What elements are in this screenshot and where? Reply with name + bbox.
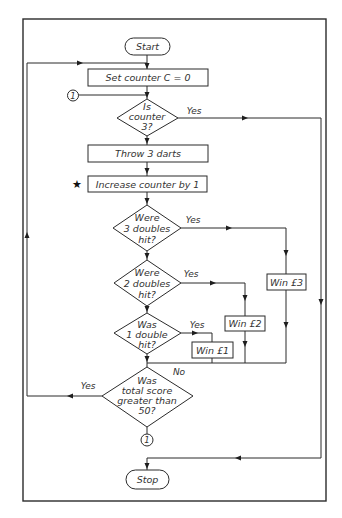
arrow-up-icon	[25, 232, 30, 238]
terminal-start-label: Start	[136, 41, 160, 52]
decision-line: 50?	[138, 405, 155, 416]
yes-label: Yes	[184, 269, 199, 279]
decision-line: 3 doubles	[124, 223, 170, 234]
yes-label: Yes	[190, 320, 205, 330]
yes-label: Yes	[81, 381, 96, 391]
diagram-frame	[23, 19, 326, 501]
outcome-win-3-label: Win £3	[270, 277, 303, 288]
decision-line: 2 doubles	[124, 278, 170, 289]
outcome-win-2-label: Win £2	[228, 318, 261, 329]
star-marker-icon: ★	[72, 178, 82, 191]
decision-three-doubles: Were 3 doubles hit?	[113, 205, 181, 251]
arrow-down-icon	[145, 168, 150, 174]
yes-label: Yes	[187, 106, 202, 116]
process-throw-darts-label: Throw 3 darts	[115, 148, 181, 159]
connector-circle-top: 1	[68, 90, 79, 101]
decision-line: hit?	[138, 339, 155, 350]
arrow-down-icon	[319, 299, 324, 305]
arrow-down-icon	[145, 306, 150, 312]
decision-line: Were	[135, 267, 160, 278]
process-set-counter-label: Set counter C = 0	[106, 72, 191, 83]
arrow-down-icon	[145, 253, 150, 259]
arrow-right-icon	[77, 61, 83, 66]
decision-two-doubles: Were 2 doubles hit?	[114, 260, 181, 306]
arrow-right-icon	[210, 281, 216, 286]
arrow-down-icon	[243, 295, 248, 301]
decision-line: hit?	[138, 289, 155, 300]
process-throw-darts: Throw 3 darts	[88, 145, 208, 162]
connector-bottom-label: 1	[144, 435, 149, 445]
arrow-down-icon	[284, 322, 289, 328]
arrow-down-icon	[145, 63, 150, 69]
process-increase-counter-label: Increase counter by 1	[96, 179, 200, 190]
decision-one-double: Was 1 double hit?	[114, 313, 181, 354]
process-increase-counter: Increase counter by 1	[88, 176, 207, 192]
arrow-down-icon	[284, 250, 289, 256]
decision-line: Were	[135, 212, 160, 223]
arrow-down-icon	[145, 356, 150, 362]
outcome-win-2: Win £2	[225, 316, 265, 331]
terminal-stop: Stop	[126, 470, 169, 489]
arrow-right-icon	[242, 116, 248, 121]
decision-is-counter-3: Is counter 3?	[117, 99, 178, 136]
outcome-win-1: Win £1	[192, 342, 233, 358]
arrow-right-icon	[192, 331, 198, 336]
arrow-down-icon	[145, 198, 150, 204]
arrow-down-icon	[145, 463, 150, 469]
decision-line: 3?	[141, 121, 152, 132]
arrow-right-icon	[226, 226, 232, 231]
yes-label: Yes	[186, 215, 201, 225]
terminal-stop-label: Stop	[137, 474, 159, 485]
outcome-win-1-label: Win £1	[196, 345, 229, 356]
decision-line: hit?	[138, 234, 155, 245]
no-label: No	[173, 367, 186, 377]
connector-top-label: 1	[70, 91, 75, 101]
outcome-win-3: Win £3	[267, 274, 306, 290]
arrow-left-icon	[67, 394, 73, 399]
arrow-down-icon	[243, 341, 248, 347]
arrow-left-icon	[235, 456, 241, 461]
flowchart-canvas: Start Stop Set counter C = 0 Throw 3 dar…	[0, 0, 342, 518]
process-set-counter: Set counter C = 0	[88, 69, 208, 86]
terminal-start: Start	[125, 38, 170, 55]
arrow-down-icon	[145, 138, 150, 144]
connector-circle-bottom: 1	[141, 434, 153, 446]
